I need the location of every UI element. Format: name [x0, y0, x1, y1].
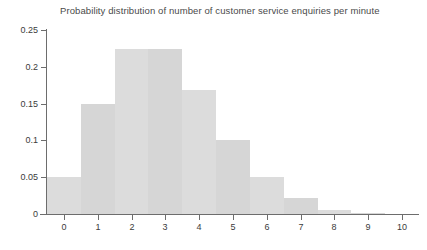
x-axis-tick-mark — [233, 215, 234, 220]
bar — [115, 49, 149, 214]
x-axis-tick-mark — [199, 215, 200, 220]
bar — [318, 210, 352, 214]
y-axis-tick-label: 0 — [2, 209, 38, 219]
x-axis-tick-label: 9 — [356, 222, 380, 232]
y-axis-tick-mark — [41, 214, 46, 215]
x-axis-tick-label: 1 — [86, 222, 110, 232]
y-axis-tick-mark — [41, 30, 46, 31]
y-axis-tick-label: 0.25 — [2, 25, 38, 35]
bar — [47, 177, 81, 214]
bar — [81, 104, 115, 214]
bar — [351, 213, 385, 214]
x-axis-tick-mark — [98, 215, 99, 220]
y-axis-tick-label: 0.05 — [2, 172, 38, 182]
bar — [182, 90, 216, 214]
bar — [148, 49, 182, 214]
x-axis-tick-mark — [165, 215, 166, 220]
x-axis-tick-label: 6 — [255, 222, 279, 232]
chart-title: Probability distribution of number of cu… — [60, 5, 380, 16]
y-axis-tick-mark — [41, 140, 46, 141]
x-axis-tick-mark — [301, 215, 302, 220]
x-axis-tick-label: 0 — [52, 222, 76, 232]
bar — [284, 198, 318, 214]
x-axis-tick-label: 3 — [153, 222, 177, 232]
y-axis-tick-mark — [41, 104, 46, 105]
y-axis-tick-mark — [41, 177, 46, 178]
x-axis-tick-label: 2 — [120, 222, 144, 232]
x-axis-tick-label: 8 — [322, 222, 346, 232]
x-axis-tick-mark — [402, 215, 403, 220]
x-axis-tick-mark — [368, 215, 369, 220]
bar — [250, 177, 284, 214]
x-axis-tick-label: 10 — [390, 222, 414, 232]
x-axis-tick-label: 5 — [221, 222, 245, 232]
y-axis-tick-label: 0.1 — [2, 135, 38, 145]
bar-chart: Probability distribution of number of cu… — [0, 0, 427, 250]
x-axis-tick-mark — [64, 215, 65, 220]
x-axis-tick-label: 4 — [187, 222, 211, 232]
x-axis-tick-mark — [334, 215, 335, 220]
y-axis-tick-label: 0.15 — [2, 99, 38, 109]
y-axis-tick-label: 0.2 — [2, 62, 38, 72]
y-axis-tick-mark — [41, 67, 46, 68]
bars-layer — [47, 30, 419, 214]
x-axis-tick-mark — [132, 215, 133, 220]
x-axis-tick-label: 7 — [289, 222, 313, 232]
x-axis-tick-mark — [267, 215, 268, 220]
x-axis-line — [40, 214, 419, 215]
plot-area — [47, 30, 419, 214]
bar — [216, 140, 250, 214]
